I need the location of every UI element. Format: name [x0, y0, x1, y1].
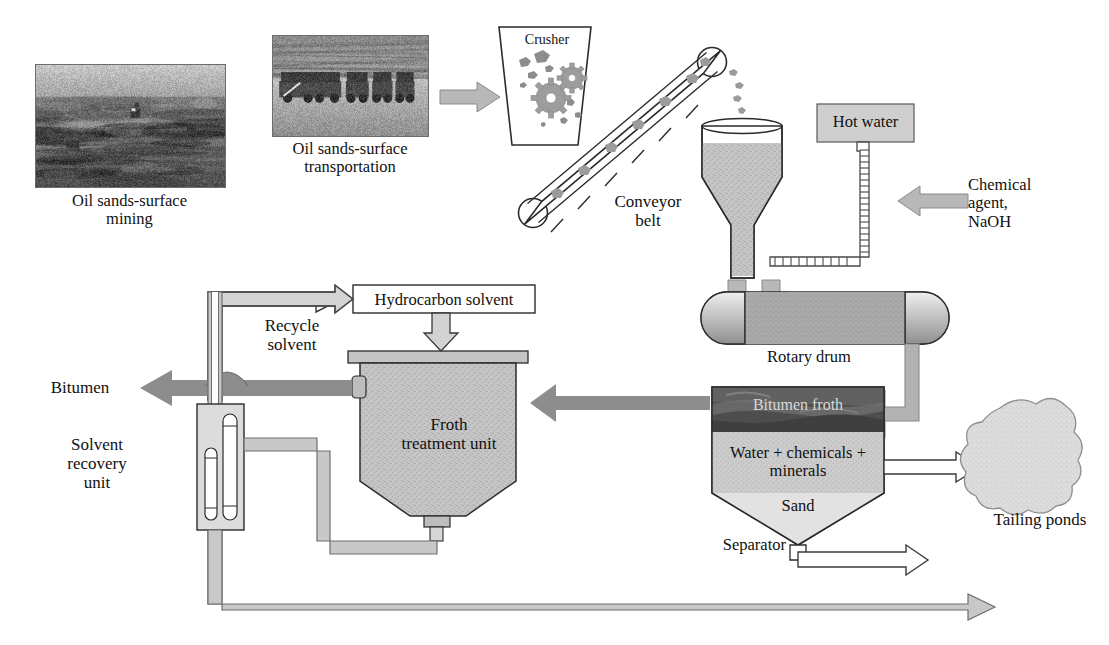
recycle-solvent-label: Recycle solvent: [240, 316, 344, 354]
separator-sand-label: Sand: [748, 497, 848, 515]
stream-product-bitumen: [140, 370, 352, 406]
hot-water-duct-hatching: [775, 150, 869, 266]
froth-treatment-inlet-nozzle: [352, 376, 366, 398]
recovery-column-b: [223, 414, 237, 520]
stream-hot-water-to-drum: [770, 142, 869, 266]
froth-treatment-label: Froth treatment unit: [384, 415, 514, 453]
stream-solvent-to-treatment: [424, 313, 458, 351]
solvent-recovery-unit: [197, 404, 244, 530]
photo-oil-sands-surface-transportation: [272, 35, 429, 137]
conveyor-belt-label: Conveyor belt: [598, 192, 698, 230]
stream-ore-to-crusher: [440, 82, 500, 112]
stream-sand-to-ponds: [798, 545, 928, 575]
tailing-ponds-unit: [960, 398, 1082, 514]
separator-label: Separator: [690, 536, 786, 554]
tailing-ponds-label: Tailing ponds: [978, 510, 1102, 529]
solvent-recovery-label: Solvent recovery unit: [32, 435, 162, 492]
caption-transportation: Oil sands-surface transportation: [262, 140, 438, 177]
recovery-column-a: [205, 448, 217, 520]
crusher-label: Crusher: [505, 32, 589, 48]
hydrocarbon-solvent-label: Hydrocarbon solvent: [354, 291, 534, 309]
tailing-pond-shape: [960, 398, 1082, 514]
surge-bin-unit: [702, 119, 782, 279]
separator-froth-layer-label: Bitumen froth: [712, 396, 884, 414]
chemical-agent-label: Chemical agent, NaOH: [968, 176, 1088, 231]
separator-middlings-label: Water + chemicals + minerals: [706, 444, 890, 481]
rotary-drum-unit: [701, 292, 949, 344]
rotary-drum-label: Rotary drum: [744, 348, 874, 366]
bitumen-outlet-label: Bitumen: [28, 378, 132, 397]
stream-froth-to-treatment: [530, 384, 710, 422]
conveyor-discharge-particles: [729, 69, 746, 114]
hot-water-label: Hot water: [817, 113, 914, 131]
froth-treatment-lid: [348, 351, 528, 363]
stream-chemical-agent: [898, 186, 968, 216]
process-flow-diagram: Oil sands-surface mining Oil sands-surfa…: [0, 0, 1109, 645]
stream-recovery-bottoms-to-ponds: [208, 530, 995, 620]
photo-oil-sands-surface-mining: [35, 64, 226, 188]
caption-mining: Oil sands-surface mining: [35, 192, 224, 229]
